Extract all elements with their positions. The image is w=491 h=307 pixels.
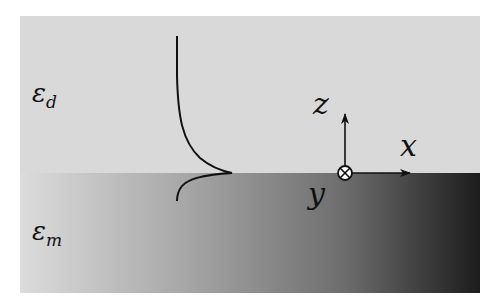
field-profile-curve (177, 36, 232, 201)
z-axis-label: z (313, 86, 329, 121)
sp-interface-diagram: εd εm z x y (20, 16, 480, 293)
y-axis-into-page-icon (338, 166, 352, 180)
x-axis-label: x (400, 128, 417, 163)
y-axis-label: y (308, 176, 325, 211)
